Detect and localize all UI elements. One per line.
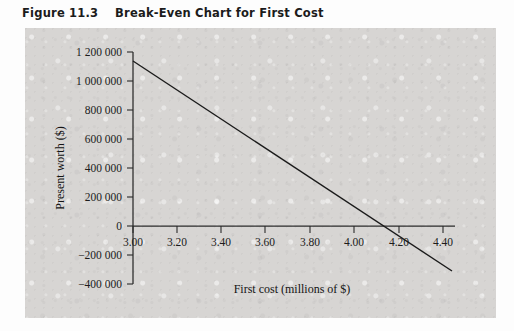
figure-page: Figure 11.3 Break-Even Chart for First C… [0,0,514,331]
chart-panel [25,28,496,318]
figure-caption: Figure 11.3 Break-Even Chart for First C… [22,6,324,20]
